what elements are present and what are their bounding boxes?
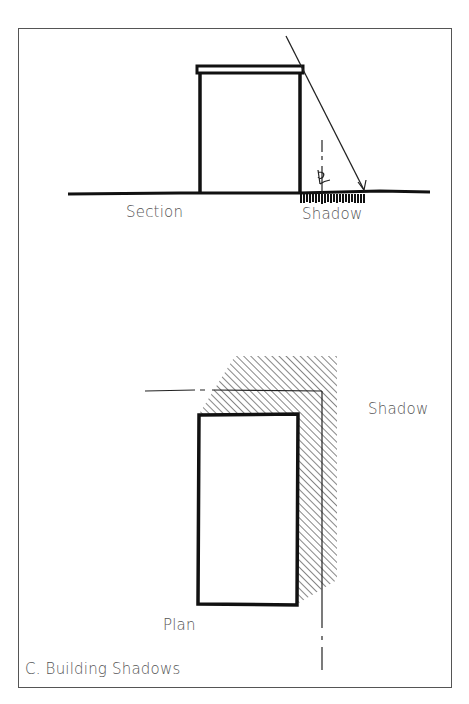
ground-line — [68, 191, 430, 194]
section-view — [68, 36, 430, 204]
section-shadow-hatching — [301, 194, 364, 204]
plan-building-outline — [198, 414, 298, 605]
building-shadows-drawing — [0, 0, 469, 704]
section-roof-slab — [197, 66, 303, 73]
section-label: Section — [126, 203, 183, 221]
sun-ray-line — [286, 36, 364, 190]
centerline-symbol — [318, 170, 330, 184]
section-shadow-label: Shadow — [302, 205, 362, 223]
figure-caption: C. Building Shadows — [25, 660, 180, 678]
plan-shadow-label: Shadow — [368, 400, 428, 418]
plan-label: Plan — [163, 616, 196, 634]
